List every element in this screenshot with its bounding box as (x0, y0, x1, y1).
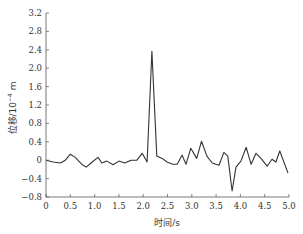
x-axis-title: 时间/s (154, 217, 180, 228)
y-tick-label: 2.4 (28, 45, 42, 55)
x-tick-label: 3.0 (185, 201, 199, 211)
y-axis: 3.22.82.42.01.61.20.80.40−0.4−0.8 (21, 8, 49, 202)
x-tick-label: 1.0 (88, 201, 102, 211)
y-tick-label: 0.4 (28, 137, 42, 147)
x-tick-label: 2.5 (161, 201, 175, 211)
y-tick-label: 1.6 (28, 82, 42, 92)
y-tick-label: −0.4 (21, 174, 42, 184)
y-axis-title-suffix: m (8, 82, 18, 94)
y-axis-title-exponent: −4 (6, 93, 13, 102)
y-tick-label: 3.2 (28, 8, 42, 18)
plot-area (46, 51, 288, 191)
x-tick-label: 1.5 (112, 201, 126, 211)
y-tick-label: −0.8 (21, 192, 42, 202)
x-tick-label: 3.5 (209, 201, 223, 211)
y-axis-title: 位移/10−4 m (6, 82, 18, 135)
x-tick-label: 4.5 (258, 201, 272, 211)
x-tick-label: 4.0 (234, 201, 248, 211)
y-tick-label: 2.0 (28, 63, 42, 73)
x-tick-label: 2.0 (136, 201, 150, 211)
y-tick-label: 2.8 (28, 26, 42, 36)
displacement-time-chart: 3.22.82.42.01.61.20.80.40−0.4−0.8 00.51.… (0, 0, 303, 234)
y-tick-label: 1.2 (28, 100, 42, 110)
x-tick-label: 0.5 (64, 201, 78, 211)
x-tick-label: 5.0 (282, 201, 296, 211)
y-tick-label: 0.8 (28, 118, 42, 128)
displacement-line (46, 51, 288, 191)
x-axis: 00.51.01.52.02.53.03.54.04.55.0 (43, 194, 295, 211)
x-tick-label: 0 (43, 201, 48, 211)
y-tick-label: 0 (37, 155, 42, 165)
y-axis-title-prefix: 位移/10 (7, 102, 18, 135)
